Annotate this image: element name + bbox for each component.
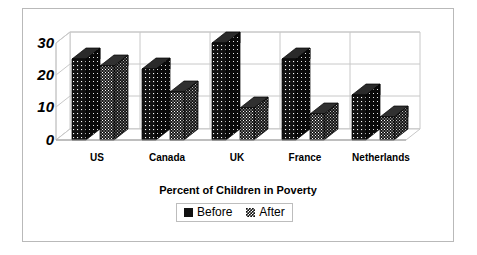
legend-label-before: Before (197, 206, 232, 218)
bar-netherlands-before (352, 84, 380, 140)
bar-uk-before (212, 32, 240, 140)
axis-side-wall (56, 32, 70, 140)
bar-canada-after (170, 81, 198, 140)
legend-item-before[interactable]: Before (184, 206, 232, 218)
x-axis-label-uk: UK (202, 152, 272, 163)
y-axis-tick-0: 0 (20, 132, 54, 147)
x-axis-label-netherlands: Netherlands (338, 152, 424, 163)
bar-france-before (282, 48, 310, 140)
y-axis-tick-10: 10 (20, 99, 54, 114)
legend-item-after[interactable]: After (246, 206, 284, 218)
legend-label-after: After (259, 206, 284, 218)
y-axis-tick-30: 30 (20, 35, 54, 50)
x-axis-label-canada: Canada (132, 152, 202, 163)
bar-us-before (72, 48, 100, 140)
y-axis-tick-20: 20 (20, 67, 54, 82)
checkered-square-icon (246, 208, 255, 217)
chart-title: Percent of Children in Poverty (22, 184, 454, 196)
x-axis-label-us: US (62, 152, 132, 163)
bar-canada-before (142, 58, 170, 140)
chart-legend: Before After (176, 203, 293, 222)
chart-figure: 30 20 10 0 US Canada UK France Netherlan… (0, 0, 477, 255)
bar-us-after (100, 55, 128, 140)
x-axis-label-france: France (270, 152, 340, 163)
solid-black-square-icon (184, 208, 193, 217)
